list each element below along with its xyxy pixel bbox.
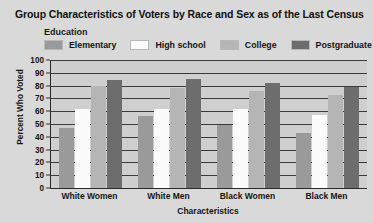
y-axis-tick-label: 90: [35, 68, 44, 77]
y-axis-tick-label: 80: [35, 81, 44, 90]
plot-area: [50, 60, 367, 189]
y-axis-tick-label: 30: [35, 145, 44, 154]
bar-group: [130, 60, 209, 188]
bar-series-container: [51, 60, 367, 188]
bar[interactable]: [170, 88, 185, 188]
y-axis-ticks: 1009080706050403020100: [24, 60, 50, 188]
bar[interactable]: [344, 87, 359, 188]
bar[interactable]: [217, 125, 232, 188]
y-axis-tick-label: 100: [30, 56, 44, 65]
chart-title: Group Characteristics of Voters by Race …: [15, 8, 364, 20]
legend-label: Postgraduate: [316, 40, 372, 50]
bar[interactable]: [265, 83, 280, 188]
bar-chart: Group Characteristics of Voters by Race …: [0, 0, 373, 223]
legend-swatch-icon: [291, 40, 310, 50]
legend-swatch-icon: [44, 40, 63, 50]
bar[interactable]: [312, 115, 327, 188]
legend-item[interactable]: Elementary: [44, 40, 116, 50]
bar[interactable]: [186, 79, 201, 188]
bar[interactable]: [107, 80, 122, 188]
bar[interactable]: [233, 109, 248, 188]
bar-group: [51, 60, 130, 188]
bar[interactable]: [75, 109, 90, 188]
legend-label: High school: [155, 40, 205, 50]
x-axis-label: White Women: [50, 191, 129, 201]
bar[interactable]: [249, 91, 264, 188]
y-axis-tick-label: 20: [35, 158, 44, 167]
legend-items: ElementaryHigh schoolCollegePostgraduate: [44, 40, 369, 50]
legend-swatch-icon: [220, 40, 239, 50]
legend-label: Elementary: [69, 40, 116, 50]
bar[interactable]: [138, 116, 153, 188]
y-axis-tick-label: 40: [35, 132, 44, 141]
legend-item[interactable]: Postgraduate: [291, 40, 372, 50]
y-axis-tick-label: 60: [35, 107, 44, 116]
legend-item[interactable]: High school: [130, 40, 205, 50]
legend-swatch-icon: [130, 40, 149, 50]
bar[interactable]: [296, 133, 311, 188]
bar-group: [209, 60, 288, 188]
y-axis-tick-label: 10: [35, 171, 44, 180]
bar-group: [288, 60, 367, 188]
plot-area-wrapper: Percent Who Voted 1009080706050403020100…: [0, 60, 373, 223]
legend-item[interactable]: College: [220, 40, 277, 50]
x-axis-label: Black Men: [287, 191, 366, 201]
bar[interactable]: [59, 128, 74, 188]
legend-title: Education: [44, 27, 369, 37]
x-axis-labels: White WomenWhite MenBlack WomenBlack Men: [50, 191, 366, 201]
bar[interactable]: [91, 86, 106, 188]
x-axis-label: Black Women: [208, 191, 287, 201]
bar[interactable]: [328, 95, 343, 188]
x-axis-label: White Men: [129, 191, 208, 201]
y-axis-tick-label: 50: [35, 120, 44, 129]
y-axis-tick-label: 0: [39, 184, 44, 193]
x-axis-title: Characteristics: [50, 206, 366, 216]
bar[interactable]: [154, 109, 169, 188]
legend: Education ElementaryHigh schoolCollegePo…: [44, 27, 369, 50]
y-axis-tick-label: 70: [35, 94, 44, 103]
legend-label: College: [245, 40, 277, 50]
